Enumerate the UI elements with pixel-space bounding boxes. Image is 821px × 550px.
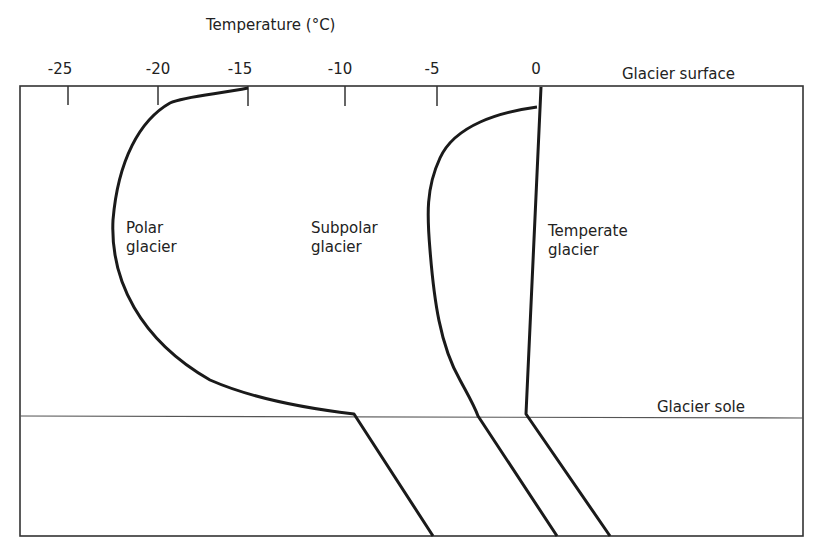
axis-title: Temperature (°C) (206, 16, 335, 35)
polar-glacier-label: Polar glacier (126, 219, 177, 257)
subpolar-glacier-label: Subpolar glacier (311, 219, 378, 257)
subpolar-label-line2: glacier (311, 238, 378, 257)
tick-label-minus-10: -10 (328, 60, 353, 78)
polar-label-line1: Polar (126, 219, 177, 238)
subpolar-label-line1: Subpolar (311, 219, 378, 238)
axis-ticks (68, 86, 437, 106)
glacier-surface-label: Glacier surface (622, 65, 735, 84)
temperate-label-line2: glacier (548, 241, 628, 260)
tick-label-minus-20: -20 (146, 60, 171, 78)
polar-glacier-curve (113, 88, 433, 536)
temperate-glacier-label: Temperate glacier (548, 222, 628, 260)
tick-label-0: 0 (531, 60, 541, 78)
temperate-glacier-line (526, 87, 610, 536)
glacier-sole-label: Glacier sole (657, 398, 745, 417)
tick-label-minus-25: -25 (48, 60, 73, 78)
tick-label-minus-15: -15 (228, 60, 253, 78)
glacier-temperature-diagram: Temperature (°C) -25 -20 -15 -10 -5 0 Gl… (0, 0, 821, 550)
tick-label-minus-5: -5 (425, 60, 440, 78)
temperate-label-line1: Temperate (548, 222, 628, 241)
polar-label-line2: glacier (126, 238, 177, 257)
